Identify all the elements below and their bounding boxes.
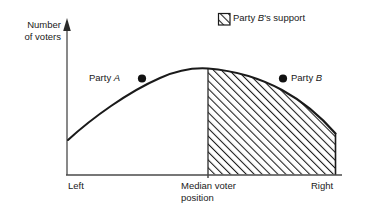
party-b-label-prefix: Party <box>291 72 316 83</box>
voter-distribution-figure: Numberof voters Party A Party B Party B'… <box>0 0 370 217</box>
party-b-dot <box>279 74 287 82</box>
x-axis-left-label: Left <box>68 180 84 192</box>
x-axis-median-label-line1: Median voter <box>181 180 236 191</box>
party-b-label: Party B <box>291 72 322 84</box>
y-axis-label: Numberof voters <box>6 19 61 42</box>
party-a-label-italic: A <box>114 72 120 83</box>
y-axis <box>63 18 71 175</box>
x-axis-right-label: Right <box>311 180 333 192</box>
x-axis-median-label: Median voterposition <box>181 180 236 203</box>
legend-label-suffix: 's support <box>264 12 305 23</box>
x-axis-median-label-line2: position <box>181 192 214 203</box>
legend-label-prefix: Party <box>233 12 258 23</box>
legend-label: Party B's support <box>233 12 305 24</box>
party-a-label-prefix: Party <box>89 72 114 83</box>
y-axis-label-line2: of voters <box>25 31 61 42</box>
party-a-label: Party A <box>89 72 120 84</box>
y-axis-label-line1: Number <box>27 19 61 30</box>
hatched-square-swatch <box>219 14 231 26</box>
party-b-label-italic: B <box>316 72 322 83</box>
party-a-dot <box>138 74 146 82</box>
